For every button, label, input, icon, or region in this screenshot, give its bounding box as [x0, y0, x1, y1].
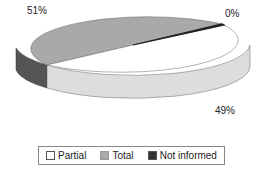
total-percent-label: 51%: [27, 5, 47, 16]
legend-item-partial: Partial: [46, 150, 86, 161]
total-swatch-icon: [100, 151, 109, 160]
legend-item-total: Total: [100, 150, 133, 161]
legend: Partial Total Not informed: [38, 146, 225, 165]
partial-percent-label: 49%: [215, 105, 235, 116]
pie-chart: [0, 0, 262, 140]
not-informed-percent-label: 0%: [225, 8, 239, 19]
legend-label: Total: [112, 150, 133, 161]
legend-item-not-informed: Not informed: [148, 150, 217, 161]
legend-label: Partial: [58, 150, 86, 161]
partial-swatch-icon: [46, 151, 55, 160]
legend-label: Not informed: [160, 150, 217, 161]
not-informed-swatch-icon: [148, 151, 157, 160]
